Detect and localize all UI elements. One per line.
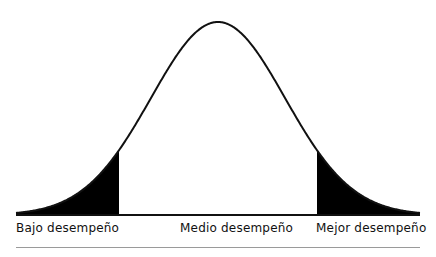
- bell-curve-line: [16, 22, 420, 213]
- bell-curve-diagram: [0, 0, 436, 257]
- label-mid-performance: Medio desempeño: [180, 221, 293, 235]
- high-performance-shaded-tail: [317, 150, 420, 215]
- bottom-divider: [16, 247, 420, 248]
- low-performance-shaded-tail: [16, 150, 119, 215]
- label-low-performance: Bajo desempeño: [16, 221, 119, 235]
- label-high-performance: Mejor desempeño: [316, 221, 426, 235]
